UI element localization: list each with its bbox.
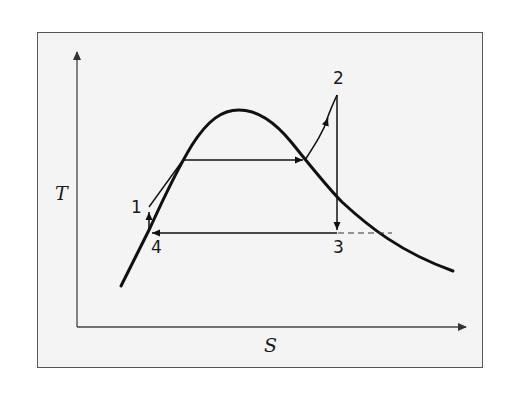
x-axis-label: S	[264, 334, 277, 356]
point-label-3: 3	[333, 239, 344, 256]
axes	[77, 52, 466, 327]
point-label-4: 4	[151, 239, 162, 256]
y-axis-label: T	[55, 182, 68, 204]
saturation-dome-curve	[121, 110, 453, 286]
process-superheat	[305, 118, 328, 160]
process-superheat-end	[326, 95, 337, 122]
process-1-heating	[149, 160, 183, 207]
ts-diagram	[0, 0, 511, 395]
point-label-2: 2	[333, 70, 344, 87]
point-label-1: 1	[131, 199, 142, 216]
